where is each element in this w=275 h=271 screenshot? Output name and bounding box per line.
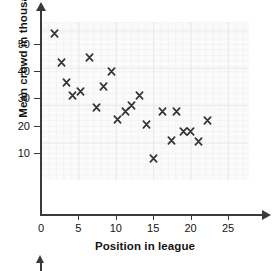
y-tick-mark xyxy=(34,126,40,127)
scatter-chart-figure: 0510152025 1020304050 Position in league… xyxy=(0,0,275,271)
x-tick-mark xyxy=(191,214,192,220)
x-tick-mark xyxy=(116,214,117,220)
x-tick-label: 0 xyxy=(29,222,53,234)
x-tick-label: 25 xyxy=(216,222,240,234)
y-tick-mark xyxy=(34,71,40,72)
x-tick-label: 10 xyxy=(104,222,128,234)
data-point-marker xyxy=(50,29,59,38)
data-point-marker xyxy=(99,82,108,91)
x-axis-title: Position in league xyxy=(41,240,249,252)
x-tick-mark xyxy=(153,214,154,220)
data-point-marker xyxy=(172,107,181,116)
y-axis-line xyxy=(40,8,42,216)
data-point-marker xyxy=(113,115,122,124)
data-point-marker xyxy=(203,116,212,125)
data-point-marker xyxy=(62,78,71,87)
y-tick-label: 10 xyxy=(6,147,30,159)
data-point-marker xyxy=(135,91,144,100)
x-axis-arrow-icon xyxy=(262,210,271,220)
y-tick-mark xyxy=(34,153,40,154)
data-point-marker xyxy=(76,87,85,96)
y-tick-mark xyxy=(34,44,40,45)
x-tick-label: 20 xyxy=(179,222,203,234)
page-edge-arrow-icon xyxy=(36,255,44,263)
x-tick-mark xyxy=(78,214,79,220)
data-point-marker xyxy=(85,53,94,62)
plot-area xyxy=(41,22,249,180)
y-tick-mark xyxy=(34,98,40,99)
x-tick-label: 5 xyxy=(66,222,90,234)
data-point-marker xyxy=(186,127,195,136)
data-point-marker xyxy=(107,67,116,76)
y-axis-title: Mean crowd in thousands xyxy=(17,0,29,131)
data-point-marker xyxy=(142,120,151,129)
data-point-marker xyxy=(194,137,203,146)
data-point-marker xyxy=(158,107,167,116)
x-tick-label: 15 xyxy=(141,222,165,234)
data-point-marker xyxy=(92,103,101,112)
y-axis-arrow-icon xyxy=(36,2,46,11)
data-point-marker xyxy=(149,154,158,163)
x-tick-mark xyxy=(228,214,229,220)
data-point-marker xyxy=(167,136,176,145)
data-point-marker xyxy=(127,101,136,110)
data-point-marker xyxy=(57,58,66,67)
page-edge-axis-stub xyxy=(40,262,42,271)
